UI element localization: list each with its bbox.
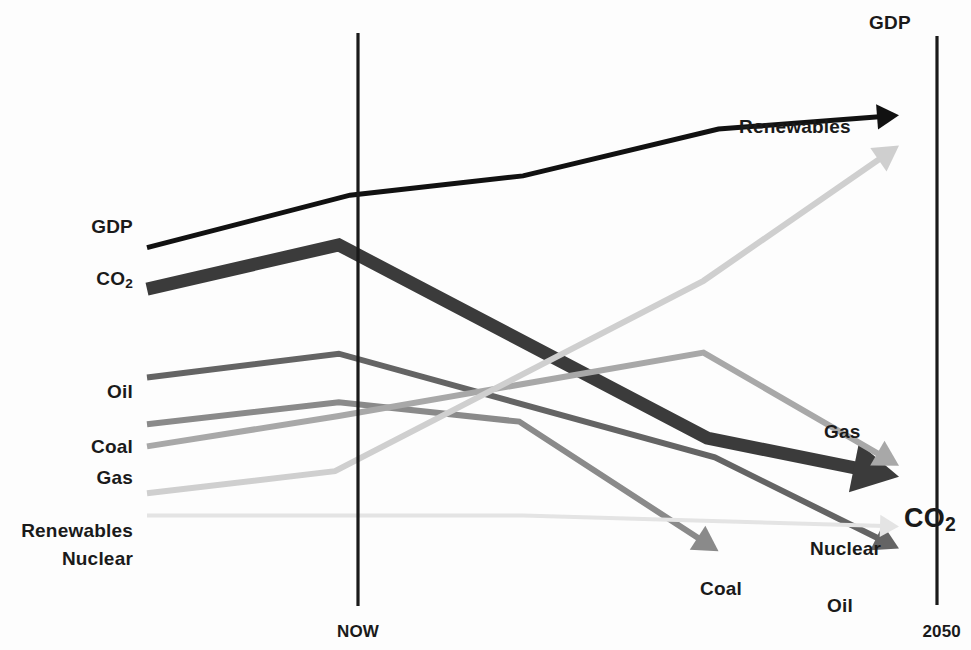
subscript: 2 bbox=[125, 276, 133, 291]
left-label-gdp: GDP bbox=[91, 217, 133, 236]
left-label-renewables: Renewables bbox=[21, 521, 133, 540]
left-label-co2: CO2 bbox=[96, 269, 133, 288]
series-line bbox=[147, 156, 884, 493]
right-label-co2: CO2 bbox=[904, 505, 956, 532]
left-label-gas: Gas bbox=[96, 468, 133, 487]
left-label-coal: Coal bbox=[91, 437, 133, 456]
series-arrowhead bbox=[880, 515, 899, 537]
series-line bbox=[147, 515, 885, 526]
left-label-nuclear: Nuclear bbox=[62, 549, 133, 568]
left-label-oil: Oil bbox=[107, 382, 133, 401]
axis-tick-2050: 2050 bbox=[922, 623, 961, 640]
series-coal bbox=[147, 402, 719, 551]
series-arrowhead bbox=[870, 146, 899, 172]
series-renewables bbox=[147, 146, 899, 494]
right-label-coal: Coal bbox=[700, 579, 742, 598]
right-label-renewables: Renewables bbox=[739, 117, 851, 136]
series-co2 bbox=[147, 245, 899, 492]
subscript: 2 bbox=[945, 513, 956, 535]
chart-canvas: GDPCO2OilCoalGasRenewablesNuclear GDPRen… bbox=[0, 0, 971, 650]
series-layer bbox=[147, 104, 899, 551]
right-label-gas: Gas bbox=[824, 422, 861, 441]
series-arrowhead bbox=[876, 104, 899, 129]
right-label-gdp: GDP bbox=[869, 13, 911, 32]
series-line bbox=[147, 245, 865, 470]
series-nuclear bbox=[147, 515, 899, 537]
right-label-oil: Oil bbox=[827, 596, 853, 615]
axis-tick-now: NOW bbox=[337, 623, 379, 640]
right-label-nuclear: Nuclear bbox=[810, 539, 881, 558]
